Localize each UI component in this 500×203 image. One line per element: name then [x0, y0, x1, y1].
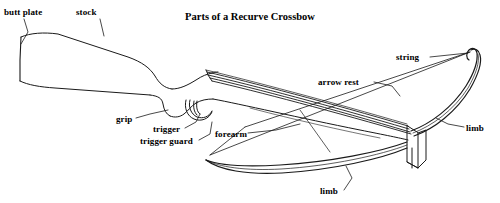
label-grip: grip	[116, 114, 132, 124]
crossbow-illustration	[0, 0, 500, 203]
label-forearm: forearm	[215, 129, 247, 139]
rail-groove	[206, 70, 411, 134]
leader-lines	[21, 19, 468, 190]
stock-outline	[20, 33, 212, 116]
trigger-outline	[194, 101, 200, 115]
crossbow-diagram: Parts of a Recurve Crossbow butt plate s…	[0, 0, 500, 203]
label-string: string	[396, 52, 419, 62]
label-limb-upper: limb	[466, 123, 484, 133]
bowstring	[210, 52, 470, 155]
page-title: Parts of a Recurve Crossbow	[0, 11, 500, 22]
label-trigger: trigger	[153, 124, 180, 134]
label-arrow-rest: arrow rest	[318, 77, 359, 87]
limb-lower-left	[206, 142, 407, 173]
label-trigger-guard: trigger guard	[140, 136, 193, 146]
label-stock: stock	[76, 7, 97, 17]
label-limb-lower: limb	[320, 186, 338, 196]
grip-outline	[170, 99, 213, 117]
label-butt-plate: butt plate	[4, 7, 42, 17]
